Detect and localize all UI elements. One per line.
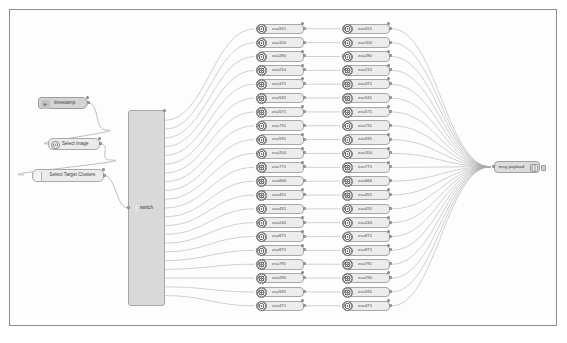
output-port[interactable] — [303, 165, 306, 168]
input-port[interactable] — [342, 96, 345, 99]
node-cluster-right[interactable]: zuu290 — [344, 273, 390, 284]
node-cluster-left[interactable]: zuu200 — [258, 148, 304, 159]
node-cluster-right[interactable]: zuu280 — [344, 51, 390, 62]
node-cluster-left[interactable]: zuu210 — [258, 65, 304, 76]
node-cluster-left[interactable]: zuu551 — [258, 24, 304, 35]
output-port[interactable] — [389, 151, 392, 154]
node-select-image[interactable]: Select image — [48, 138, 100, 150]
input-port[interactable] — [256, 179, 259, 182]
output-port[interactable] — [99, 142, 102, 145]
node-cluster-right[interactable]: zuu666 — [344, 176, 390, 187]
node-cluster-right[interactable]: zuu531 — [344, 93, 390, 104]
node-inject-timestamp[interactable]: ▸ timestamp — [38, 97, 88, 109]
output-port[interactable] — [389, 248, 392, 251]
node-debug-msg-payload[interactable]: msg payload — [494, 161, 540, 173]
input-port[interactable] — [256, 41, 259, 44]
node-cluster-right[interactable]: zuu731 — [344, 120, 390, 131]
output-port[interactable] — [303, 82, 306, 85]
output-port[interactable] — [389, 235, 392, 238]
node-cluster-right[interactable]: zuu551 — [344, 24, 390, 35]
output-port[interactable] — [303, 248, 306, 251]
output-port[interactable] — [389, 138, 392, 141]
input-port[interactable] — [256, 276, 259, 279]
input-port[interactable] — [256, 290, 259, 293]
input-port[interactable] — [342, 124, 345, 127]
input-port[interactable] — [342, 276, 345, 279]
input-port[interactable] — [256, 96, 259, 99]
output-port[interactable] — [303, 179, 306, 182]
input-port[interactable] — [342, 290, 345, 293]
node-cluster-left[interactable]: zuu791 — [258, 259, 304, 270]
node-cluster-right[interactable]: zuu571 — [344, 107, 390, 118]
output-port[interactable] — [389, 110, 392, 113]
node-cluster-right[interactable]: zuu200 — [344, 148, 390, 159]
output-port[interactable] — [303, 138, 306, 141]
input-port[interactable] — [342, 235, 345, 238]
node-cluster-left[interactable]: zuu571 — [258, 107, 304, 118]
input-port[interactable] — [127, 206, 130, 209]
node-cluster-right[interactable]: zuu871 — [344, 245, 390, 256]
output-port[interactable] — [303, 262, 306, 265]
input-port[interactable] — [342, 262, 345, 265]
node-cluster-right[interactable]: zuu791 — [344, 259, 390, 270]
output-port[interactable] — [389, 27, 392, 30]
output-port[interactable] — [103, 174, 106, 177]
horizontal-scrollbar[interactable] — [10, 339, 557, 343]
output-port[interactable] — [303, 193, 306, 196]
input-port[interactable] — [256, 304, 259, 307]
output-port[interactable] — [389, 96, 392, 99]
node-cluster-left[interactable]: zuu240 — [258, 217, 304, 228]
output-port[interactable] — [389, 221, 392, 224]
flow-canvas[interactable]: ▸ timestamp Select image Select Target C… — [9, 9, 557, 326]
output-port[interactable] — [303, 290, 306, 293]
output-port[interactable] — [389, 179, 392, 182]
output-port[interactable] — [303, 151, 306, 154]
input-port[interactable] — [342, 179, 345, 182]
node-cluster-left[interactable]: zuu471 — [258, 301, 304, 312]
output-port[interactable] — [87, 101, 90, 104]
input-port[interactable] — [256, 138, 259, 141]
output-port[interactable] — [303, 68, 306, 71]
output-port[interactable] — [389, 54, 392, 57]
input-port[interactable] — [342, 82, 345, 85]
output-port[interactable] — [389, 193, 392, 196]
output-port[interactable] — [389, 304, 392, 307]
input-port[interactable] — [342, 304, 345, 307]
input-port[interactable] — [256, 82, 259, 85]
input-port[interactable] — [256, 207, 259, 210]
output-port[interactable] — [389, 41, 392, 44]
output-port[interactable] — [303, 221, 306, 224]
node-cluster-left[interactable]: zuu591 — [258, 287, 304, 298]
node-cluster-left[interactable]: zuu100 — [258, 37, 304, 48]
node-cluster-right[interactable]: zuu431 — [344, 204, 390, 215]
input-port[interactable] — [342, 221, 345, 224]
node-switch[interactable]: ⟨ switch — [128, 110, 165, 306]
node-cluster-left[interactable]: zuu531 — [258, 93, 304, 104]
output-port[interactable] — [303, 54, 306, 57]
output-port[interactable] — [389, 165, 392, 168]
output-port[interactable] — [389, 82, 392, 85]
input-port[interactable] — [492, 165, 495, 168]
output-port[interactable] — [303, 41, 306, 44]
output-port[interactable] — [303, 27, 306, 30]
node-cluster-right[interactable]: zuu591 — [344, 134, 390, 145]
output-port[interactable] — [303, 235, 306, 238]
node-cluster-right[interactable]: zuu210 — [344, 65, 390, 76]
node-cluster-left[interactable]: zuu451 — [258, 190, 304, 201]
node-cluster-right[interactable]: zuu100 — [344, 37, 390, 48]
input-port[interactable] — [256, 110, 259, 113]
node-cluster-left[interactable]: zuu871 — [258, 245, 304, 256]
input-port[interactable] — [256, 262, 259, 265]
node-cluster-left[interactable]: zuu371 — [258, 79, 304, 90]
input-port[interactable] — [342, 110, 345, 113]
input-port[interactable] — [342, 207, 345, 210]
input-port[interactable] — [256, 124, 259, 127]
output-port[interactable] — [389, 262, 392, 265]
node-cluster-right[interactable]: zuu451 — [344, 190, 390, 201]
node-cluster-left[interactable]: zuu871 — [258, 231, 304, 242]
output-port[interactable] — [303, 304, 306, 307]
output-port[interactable] — [303, 110, 306, 113]
debug-toggle-tab[interactable] — [541, 165, 546, 171]
node-cluster-right[interactable]: zuu240 — [344, 217, 390, 228]
input-port[interactable] — [256, 27, 259, 30]
